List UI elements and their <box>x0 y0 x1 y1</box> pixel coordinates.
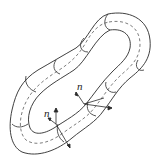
cross-sections <box>12 14 144 142</box>
normal-vector-lower <box>48 108 70 148</box>
normal-label-lower: n <box>44 107 50 119</box>
normal-label-upper: n <box>77 80 83 92</box>
tube-loop-diagram: n n <box>0 0 160 168</box>
